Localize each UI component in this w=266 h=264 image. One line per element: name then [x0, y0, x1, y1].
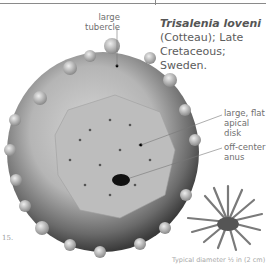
species-name: Trisalenia loveni	[160, 17, 266, 31]
label-line: anus	[224, 152, 265, 162]
anus-opening	[112, 174, 130, 186]
label-line: large, flat	[224, 108, 266, 118]
label-line: tubercle	[82, 22, 120, 32]
species-authority: (Cotteau); Late	[160, 31, 266, 45]
label-line: large	[82, 12, 120, 22]
label-anus: off-center anus	[224, 142, 265, 162]
page-fragment: 15.	[2, 234, 13, 242]
specimen-title: Trisalenia loveni (Cotteau); Late Cretac…	[160, 17, 266, 73]
species-period: Cretaceous; Sweden.	[160, 45, 266, 73]
label-line: apical disk	[224, 118, 266, 138]
label-apical-disk: large, flat apical disk	[224, 108, 266, 138]
size-caption: Typical diameter ½ in (2 cm)	[172, 256, 265, 264]
label-large-tubercle: large tubercle	[82, 12, 120, 32]
label-line: off-center	[224, 142, 265, 152]
